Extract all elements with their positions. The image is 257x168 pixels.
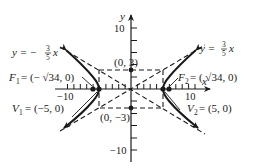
svg-text:= ( √34, 0): = ( √34, 0) <box>190 71 237 84</box>
svg-text:1: 1 <box>16 77 20 86</box>
svg-text:5: 5 <box>46 53 50 62</box>
label-f2: F 2 = ( √34, 0) <box>177 71 237 86</box>
label-v1: V 1 = (−5, 0) <box>12 102 64 117</box>
point-v2 <box>160 86 165 91</box>
point-f1 <box>90 86 95 91</box>
svg-text:5: 5 <box>222 49 226 58</box>
svg-text:x: x <box>228 42 234 54</box>
label-v2: V 2 = (5, 0) <box>187 102 232 117</box>
point-f2 <box>166 86 171 91</box>
svg-text:3: 3 <box>46 44 50 53</box>
hyperbola-diagram: x −10 10 y 10 −10 <box>0 0 257 168</box>
svg-text:y =: y = <box>199 42 215 54</box>
label-bottom-point: (0, −3) <box>100 111 130 124</box>
label-asymptote-left: y = − 3 5 x <box>11 44 58 62</box>
x-tick-neg-10: −10 <box>57 91 73 102</box>
label-top-point: (0, 3) <box>114 56 138 69</box>
svg-text:= (5, 0): = (5, 0) <box>199 102 232 115</box>
label-f1: F 1 = (− √34, 0) <box>8 71 75 86</box>
svg-text:x: x <box>52 46 58 58</box>
svg-text:= (−5, 0): = (−5, 0) <box>25 102 64 115</box>
svg-text:2: 2 <box>185 77 189 86</box>
svg-text:F: F <box>8 71 16 83</box>
label-asymptote-right: y = 3 5 x <box>199 40 234 58</box>
svg-text:y = −: y = − <box>11 46 37 58</box>
svg-text:1: 1 <box>19 108 23 117</box>
x-tick-pos-10: 10 <box>185 91 196 102</box>
svg-text:3: 3 <box>222 40 226 49</box>
point-v1 <box>96 86 101 91</box>
svg-text:F: F <box>177 71 185 83</box>
point-bottom <box>129 106 134 111</box>
svg-text:2: 2 <box>194 108 198 117</box>
y-axis-label: y <box>119 10 125 22</box>
point-top <box>129 68 134 73</box>
y-tick-neg-10: −10 <box>110 145 126 156</box>
y-tick-pos-10: 10 <box>114 23 125 34</box>
svg-text:= (− √34, 0): = (− √34, 0) <box>21 71 75 84</box>
